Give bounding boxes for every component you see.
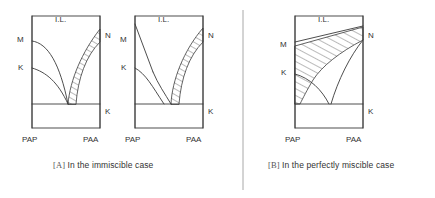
- axis-label-K-right-A2: K: [208, 107, 213, 116]
- diagram-A2: [135, 16, 203, 128]
- axis-label-K-right-A1: K: [105, 107, 110, 116]
- axis-label-N-B1: N: [368, 31, 374, 40]
- axis-label-K-B1: K: [281, 68, 286, 77]
- diagram-B1: [295, 16, 363, 128]
- axis-label-K-A2: K: [121, 63, 126, 72]
- caption-bracket-B: [B]: [268, 160, 280, 170]
- axis-label-N-A1: N: [105, 31, 111, 40]
- x-axis-label-PAP-A1: PAP: [22, 135, 37, 144]
- region-label-IL-A2: I.L.: [158, 15, 169, 24]
- axis-label-K-A1: K: [18, 63, 23, 72]
- x-axis-label-PAA-A1: PAA: [83, 135, 98, 144]
- caption-text-B: In the perfectly miscible case: [282, 160, 394, 170]
- axis-label-M-B1: M: [280, 40, 287, 49]
- caption-panel-B: [B] In the perfectly miscible case: [268, 160, 394, 170]
- caption-panel-A: [A] In the immiscible case: [53, 160, 153, 170]
- axis-label-K-right-B1: K: [368, 107, 373, 116]
- axis-label-M-A2: M: [120, 35, 127, 44]
- x-axis-label-PAA-A2: PAA: [186, 135, 201, 144]
- x-axis-label-PAA-B1: PAA: [346, 135, 361, 144]
- phase-diagram-figure: M K N K I.L. PAP PAA M K N K I.L. PAP PA…: [0, 0, 435, 198]
- axis-label-N-A2: N: [208, 31, 214, 40]
- caption-bracket-A: [A]: [53, 160, 65, 170]
- region-label-IL-A1: I.L.: [55, 15, 66, 24]
- diagram-A1: [32, 16, 100, 128]
- region-label-IL-B1: I.L.: [318, 15, 329, 24]
- x-axis-label-PAP-A2: PAP: [125, 135, 140, 144]
- x-axis-label-PAP-B1: PAP: [285, 135, 300, 144]
- caption-text-A: In the immiscible case: [68, 160, 154, 170]
- axis-label-M-A1: M: [17, 35, 24, 44]
